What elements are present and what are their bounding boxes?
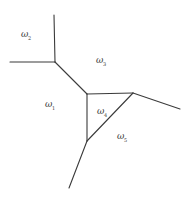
- svg-text:3: 3: [103, 61, 106, 67]
- edge-triangle-hyp: [87, 93, 133, 141]
- svg-text:2: 2: [28, 35, 31, 41]
- edge-triangle-top: [87, 93, 133, 94]
- region-label-w4: ω 4: [97, 106, 107, 118]
- svg-text:4: 4: [104, 112, 107, 118]
- svg-text:1: 1: [52, 105, 55, 111]
- edge-right-ray: [133, 93, 180, 109]
- region-label-w5: ω 5: [117, 131, 127, 143]
- region-label-w2: ω 2: [21, 29, 31, 41]
- edge-diagonal: [55, 62, 87, 94]
- region-label-w1: ω 1: [45, 99, 55, 111]
- edge-bottom-ray: [69, 141, 87, 188]
- svg-text:5: 5: [124, 137, 127, 143]
- edges: [10, 15, 180, 188]
- region-label-w3: ω 3: [96, 55, 106, 67]
- voronoi-diagram: ω 1 ω 2 ω 3 ω 4 ω 5: [0, 0, 191, 204]
- edge-top-vertical: [54, 15, 55, 62]
